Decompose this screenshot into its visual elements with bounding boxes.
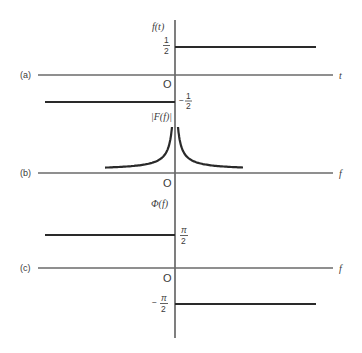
- panel-c: (c) f Φ(f) O π 2 − π 2: [20, 198, 343, 314]
- panel-a-origin-label: O: [163, 78, 172, 90]
- panel-a-positive-level-numerator: 1: [164, 35, 169, 45]
- panel-b-origin-label: O: [163, 177, 172, 189]
- panel-a-negative-level-denominator: 2: [186, 101, 191, 111]
- panel-a-positive-level-denominator: 2: [164, 46, 169, 56]
- panel-a-negative-sign: −: [179, 95, 184, 105]
- panel-a-negative-level-numerator: 1: [186, 91, 191, 101]
- panel-c-positive-level-numerator: π: [181, 225, 187, 235]
- magnitude-curve-right: [178, 127, 243, 168]
- panel-c-function-label: Φ(f): [151, 198, 169, 210]
- panel-a-label: (a): [20, 70, 31, 80]
- panel-c-origin-label: O: [163, 272, 172, 284]
- magnitude-curve-left: [105, 127, 172, 168]
- panel-a: (a) t f(t) O 1 2 − 1 2: [20, 21, 342, 111]
- panel-c-negative-level-denominator: 2: [161, 304, 166, 314]
- panel-b-label: (b): [20, 168, 31, 178]
- panel-b: (b) f |F(f)| O: [20, 111, 343, 189]
- signal-spectrum-diagram: (a) t f(t) O 1 2 − 1 2 (b) f |F(f)| O (c…: [0, 0, 362, 353]
- panel-c-negative-sign: −: [152, 297, 157, 307]
- panel-c-axis-variable: f: [339, 263, 343, 274]
- panel-a-axis-variable: t: [339, 70, 342, 81]
- panel-b-axis-variable: f: [339, 168, 343, 179]
- panel-a-function-label: f(t): [152, 21, 165, 33]
- panel-b-function-label: |F(f)|: [151, 111, 172, 123]
- panel-c-negative-level-numerator: π: [161, 293, 167, 303]
- panel-c-label: (c): [20, 263, 31, 273]
- panel-c-positive-level-denominator: 2: [181, 236, 186, 246]
